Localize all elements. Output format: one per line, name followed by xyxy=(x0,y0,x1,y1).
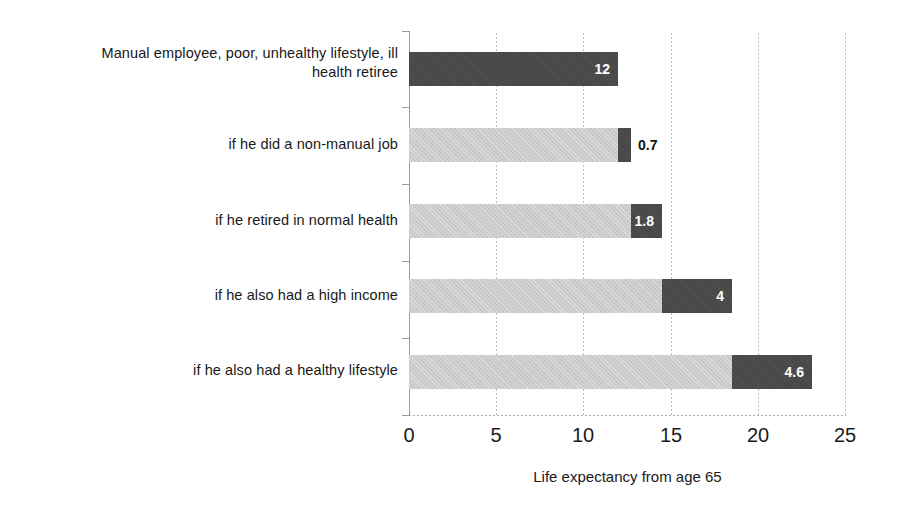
category-label-4: if he also had a healthy lifestyle xyxy=(18,361,398,380)
category-label-3-line1: if he also had a high income xyxy=(18,286,398,305)
bar-segment-base-1[interactable] xyxy=(409,128,618,162)
plot-area: 12 0.7 1.8 4 4.6 xyxy=(409,31,845,415)
category-label-1: if he did a non-manual job xyxy=(18,135,398,154)
data-label-4: 4.6 xyxy=(785,364,812,380)
bar-segment-base-3[interactable] xyxy=(409,279,662,313)
category-label-2: if he retired in normal health xyxy=(18,211,398,230)
data-label-2: 1.8 xyxy=(635,213,662,229)
data-label-1: 0.7 xyxy=(631,128,657,162)
x-tick-label-5: 5 xyxy=(466,424,526,447)
x-tick-label-20: 20 xyxy=(728,424,788,447)
bar-chart: Manual employee, poor, unhealthy lifesty… xyxy=(0,0,900,523)
x-tick-label-15: 15 xyxy=(641,424,701,447)
bar-segment-increment-4[interactable]: 4.6 xyxy=(732,355,812,389)
bar-segment-base-2[interactable] xyxy=(409,204,631,238)
bar-segment-base-4[interactable] xyxy=(409,355,732,389)
bar-segment-increment-2[interactable]: 1.8 xyxy=(631,204,662,238)
category-label-1-line1: if he did a non-manual job xyxy=(18,135,398,154)
category-label-2-line1: if he retired in normal health xyxy=(18,211,398,230)
data-label-0: 12 xyxy=(594,61,618,77)
x-tick-label-10: 10 xyxy=(553,424,613,447)
bar-segment-increment-0[interactable]: 12 xyxy=(409,52,618,86)
category-label-0: Manual employee, poor, unhealthy lifesty… xyxy=(18,44,398,82)
data-label-3: 4 xyxy=(716,288,732,304)
category-label-3: if he also had a high income xyxy=(18,286,398,305)
x-axis-line xyxy=(409,415,846,416)
x-axis-title: Life expectancy from age 65 xyxy=(409,468,846,485)
category-label-4-line1: if he also had a healthy lifestyle xyxy=(18,361,398,380)
y-axis-tick-bottom xyxy=(402,415,410,416)
category-label-0-line2: health retiree xyxy=(18,63,398,82)
bar-segment-increment-3[interactable]: 4 xyxy=(662,279,732,313)
gridline-25 xyxy=(845,33,846,415)
x-tick-label-25: 25 xyxy=(815,424,875,447)
category-label-0-line1: Manual employee, poor, unhealthy lifesty… xyxy=(18,44,398,63)
bar-segment-increment-1[interactable] xyxy=(618,128,631,162)
x-tick-label-0: 0 xyxy=(379,424,439,447)
